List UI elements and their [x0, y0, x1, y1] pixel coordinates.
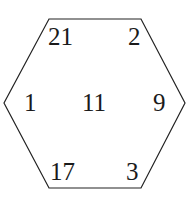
hexagon-diagram: 21 2 1 11 9 17 3 — [0, 0, 189, 203]
label-bottom-right: 3 — [126, 158, 139, 185]
label-top-right: 2 — [128, 23, 141, 50]
label-right: 9 — [153, 89, 166, 116]
label-bottom-left: 17 — [50, 158, 75, 185]
label-top-left: 21 — [48, 23, 73, 50]
label-left: 1 — [24, 89, 37, 116]
label-center: 11 — [82, 89, 106, 116]
